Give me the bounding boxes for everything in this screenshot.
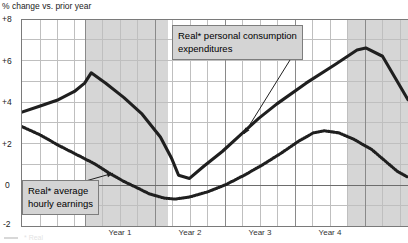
chart-root: % change vs. prior year [0,0,408,243]
earnings-callout: Real* average hourly earnings [22,180,99,215]
legend-swatch [4,237,18,239]
earnings-callout-line1: Real* average [28,184,93,197]
y-tick-label: +8 [2,14,12,24]
y-tick-label: +2 [2,139,12,149]
y-tick-label: +6 [2,56,12,66]
pce-callout: Real* personal consumption expenditures [172,25,303,60]
y-tick-label: +4 [2,97,12,107]
legend-text: * Real [24,234,43,241]
legend-strip-cropped: * Real [0,234,408,243]
pce-callout-line2: expenditures [178,42,297,55]
pce-callout-line1: Real* personal consumption [178,29,297,42]
earnings-callout-line2: hourly earnings [28,197,93,210]
y-tick-label: -2 [3,219,11,229]
y-tick-label: 0 [5,180,10,190]
